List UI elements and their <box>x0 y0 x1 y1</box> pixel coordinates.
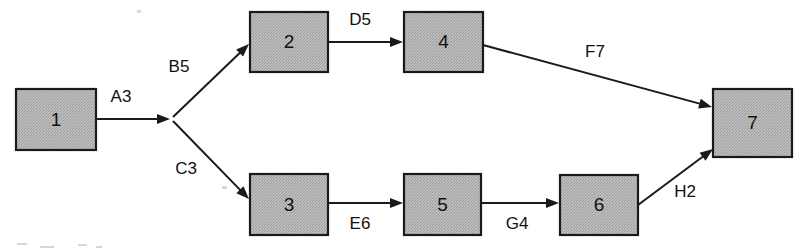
node-3[interactable]: 3 <box>250 174 328 235</box>
edge-label-h2: H2 <box>674 182 696 201</box>
edge-label-g4: G4 <box>506 214 529 233</box>
arrowhead-f7-icon <box>698 99 712 109</box>
node-label-7: 7 <box>747 112 758 133</box>
edge-label-e6: E6 <box>350 214 371 233</box>
node-5[interactable]: 5 <box>404 174 481 235</box>
node-label-5: 5 <box>437 194 448 215</box>
arrowhead-e6-icon <box>390 198 403 208</box>
edge-line-c3 <box>173 121 242 192</box>
nodes-layer: 1234567 <box>16 12 792 235</box>
edge-label-c3: C3 <box>175 159 197 178</box>
network-diagram-canvas: 1234567 A3B5C3D5E6F7G4H2 <box>0 0 800 252</box>
edge-label-a3: A3 <box>111 87 132 106</box>
node-label-3: 3 <box>284 194 295 215</box>
node-label-6: 6 <box>594 194 605 215</box>
edge-g4 <box>481 198 559 208</box>
edge-label-f7: F7 <box>585 42 605 61</box>
network-diagram-svg: 1234567 A3B5C3D5E6F7G4H2 <box>0 0 800 252</box>
edge-e6 <box>328 198 403 208</box>
node-label-4: 4 <box>438 31 449 52</box>
arrowhead-d5-icon <box>390 37 403 47</box>
edge-d5 <box>328 37 403 47</box>
edge-a3 <box>96 114 170 124</box>
arrowhead-g4-icon <box>546 198 559 208</box>
node-4[interactable]: 4 <box>404 12 483 72</box>
node-2[interactable]: 2 <box>250 12 328 72</box>
node-7[interactable]: 7 <box>713 89 792 157</box>
edge-label-b5: B5 <box>169 57 190 76</box>
node-1[interactable]: 1 <box>16 89 96 150</box>
arrowhead-a3-icon <box>157 114 170 124</box>
node-label-2: 2 <box>284 31 295 52</box>
arrowhead-h2-icon <box>700 149 713 161</box>
node-6[interactable]: 6 <box>560 175 638 235</box>
node-label-1: 1 <box>51 109 62 130</box>
edge-label-d5: D5 <box>349 10 371 29</box>
edge-b5 <box>173 44 249 117</box>
